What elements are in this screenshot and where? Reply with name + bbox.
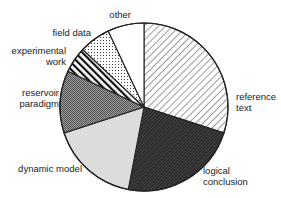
slice-label-field-data: field data — [52, 27, 91, 38]
pie-chart: referencetextlogicalconclusiondynamic mo… — [0, 0, 281, 198]
slice-label-experimental-work: experimentalwork — [12, 45, 67, 67]
slice-label-logical-conclusion: logicalconclusion — [203, 165, 248, 187]
slice-label-reservoir-paradigm: reservoirparadigm — [19, 87, 59, 109]
slice-label-reference-text: referencetext — [236, 91, 276, 113]
slice-label-other: other — [109, 9, 131, 20]
slice-label-dynamic-model: dynamic model — [18, 163, 82, 174]
